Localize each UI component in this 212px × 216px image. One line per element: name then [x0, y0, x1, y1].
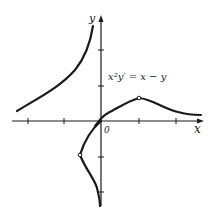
- integral-curves-diagram: y x 0 x²y′ = x − y: [0, 0, 212, 216]
- y-axis-arrow-icon: [99, 15, 104, 22]
- curve-left-upper: [17, 26, 93, 111]
- extremum-point-right: [137, 96, 141, 100]
- x-axis: [12, 118, 204, 124]
- y-axis: [98, 15, 104, 206]
- y-axis-label: y: [88, 12, 96, 25]
- x-axis-label: x: [194, 122, 201, 136]
- equation-label: x²y′ = x − y: [108, 71, 167, 82]
- turning-point-lower: [78, 153, 82, 157]
- curve-through-origin: [95, 98, 201, 126]
- origin-label: 0: [104, 125, 110, 135]
- curve-lower: [80, 121, 101, 206]
